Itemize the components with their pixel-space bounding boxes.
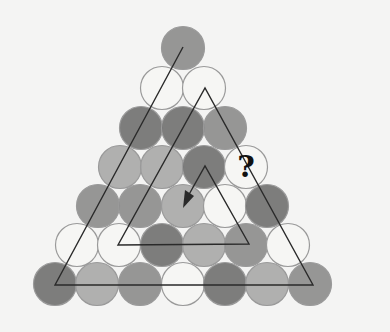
circle-light xyxy=(99,146,142,189)
circle-medium xyxy=(119,263,162,306)
triangle-circle-puzzle: ? xyxy=(0,0,390,332)
question-mark: ? xyxy=(237,149,255,184)
circle-medium xyxy=(289,263,332,306)
circle-dark xyxy=(204,263,247,306)
circle-white xyxy=(204,185,247,228)
question-mark-cell: ? xyxy=(237,149,255,184)
circle-dark xyxy=(246,185,289,228)
circle-white xyxy=(162,263,205,306)
circle-light xyxy=(162,185,205,228)
circle-white xyxy=(141,67,184,110)
circle-light xyxy=(246,263,289,306)
puzzle-diagram: ? xyxy=(0,0,390,332)
circle-light xyxy=(76,263,119,306)
circle-grid xyxy=(34,27,332,306)
circle-dark xyxy=(120,107,163,150)
circle-white xyxy=(183,67,226,110)
circle-white xyxy=(267,224,310,267)
circle-medium xyxy=(204,107,247,150)
circle-medium xyxy=(225,224,268,267)
